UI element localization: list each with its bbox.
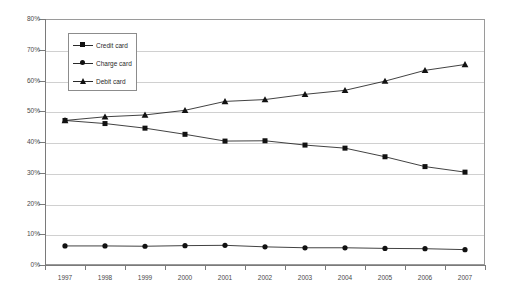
square-marker-icon — [73, 41, 93, 50]
x-tick-label: 1997 — [45, 274, 85, 281]
x-axis-line — [45, 265, 486, 266]
x-tick-label: 2001 — [205, 274, 245, 281]
x-tick-label: 2002 — [245, 274, 285, 281]
legend: Credit card Charge card Debit card — [68, 33, 137, 91]
x-tick-label: 2005 — [365, 274, 405, 281]
x-tick — [445, 265, 446, 270]
circle-marker-icon — [73, 59, 93, 68]
x-tick — [365, 265, 366, 270]
x-tick — [285, 265, 286, 270]
x-tick-label: 2007 — [445, 274, 485, 281]
y-tick-label: 40% — [0, 138, 40, 146]
x-tick — [485, 265, 486, 270]
x-tick — [325, 265, 326, 270]
triangle-marker-icon — [73, 77, 93, 86]
y-tick-label: 20% — [0, 200, 40, 208]
y-tick-label: 30% — [0, 169, 40, 177]
x-tick-label: 2003 — [285, 274, 325, 281]
y-tick-label: 60% — [0, 77, 40, 85]
y-axis-line — [45, 19, 46, 266]
y-tick-label: 70% — [0, 46, 40, 54]
x-tick — [165, 265, 166, 270]
x-tick-label: 2004 — [325, 274, 365, 281]
x-tick-label: 1998 — [85, 274, 125, 281]
gridline-10 — [46, 235, 484, 236]
line-chart: 0%10%20%30%40%50%60%70%80% 1997199819992… — [0, 0, 506, 300]
legend-item-debit-card[interactable]: Debit card — [73, 76, 126, 86]
gridline-20 — [46, 205, 484, 206]
legend-item-credit-card[interactable]: Credit card — [73, 40, 128, 50]
legend-label: Charge card — [96, 60, 132, 67]
gridline-40 — [46, 143, 484, 144]
x-tick — [205, 265, 206, 270]
legend-label: Debit card — [96, 78, 126, 85]
legend-label: Credit card — [96, 42, 128, 49]
y-tick-label: 0% — [0, 261, 40, 269]
x-tick — [245, 265, 246, 270]
x-tick — [125, 265, 126, 270]
x-tick-label: 2000 — [165, 274, 205, 281]
gridline-50 — [46, 112, 484, 113]
x-tick-label: 1999 — [125, 274, 165, 281]
x-tick — [85, 265, 86, 270]
legend-item-charge-card[interactable]: Charge card — [73, 58, 132, 68]
y-tick-label: 10% — [0, 230, 40, 238]
y-tick-label: 50% — [0, 107, 40, 115]
y-tick-label: 80% — [0, 15, 40, 23]
x-tick — [45, 265, 46, 270]
x-tick-label: 2006 — [405, 274, 445, 281]
gridline-30 — [46, 174, 484, 175]
x-tick — [405, 265, 406, 270]
